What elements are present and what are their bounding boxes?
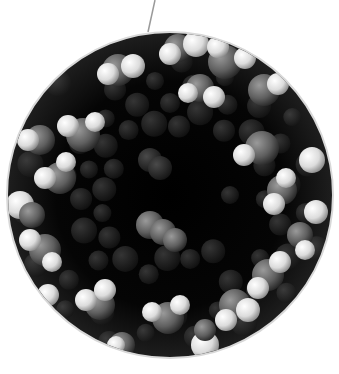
- hydrogen-atom: [203, 86, 225, 108]
- leader-line: [148, 0, 155, 32]
- hydrogen-atom: [170, 295, 190, 315]
- background-atom: [180, 249, 200, 269]
- hydrogen-atom: [233, 144, 255, 166]
- hydrogen-atom: [97, 63, 119, 85]
- hydrogen-atom: [34, 167, 56, 189]
- hydrogen-atom: [178, 83, 198, 103]
- heavy-atom: [163, 228, 187, 252]
- hydrogen-atom: [304, 200, 328, 224]
- hydrogen-atom: [75, 289, 97, 311]
- background-atom: [70, 188, 92, 210]
- hydrogen-atom: [19, 229, 41, 251]
- hydrogen-atom: [295, 240, 315, 260]
- heavy-atom: [194, 319, 216, 341]
- background-atom: [104, 159, 124, 179]
- hydrogen-atom: [299, 147, 325, 173]
- hydrogen-atom: [215, 309, 237, 331]
- hydrogen-atom: [247, 277, 269, 299]
- hydrogen-atom: [57, 115, 79, 137]
- background-atom: [283, 108, 301, 126]
- background-atom: [201, 239, 225, 263]
- background-atom: [93, 204, 111, 222]
- hydrogen-atom: [142, 302, 162, 322]
- background-atom: [59, 270, 79, 290]
- background-atom: [168, 116, 190, 138]
- background-atom: [137, 324, 155, 342]
- hydrogen-atom: [94, 279, 116, 301]
- background-atom: [139, 264, 159, 284]
- background-atom: [146, 72, 164, 90]
- hydrogen-atom: [85, 112, 105, 132]
- hydrogen-atom: [236, 298, 260, 322]
- hydrogen-atom: [263, 193, 285, 215]
- background-atom: [80, 160, 98, 178]
- background-atom: [98, 226, 120, 248]
- background-atom: [125, 93, 149, 117]
- hydrogen-atom: [42, 252, 62, 272]
- hydrogen-atom: [276, 168, 296, 188]
- hydrogen-atom: [269, 251, 291, 273]
- hydrogen-atom: [56, 152, 76, 172]
- background-atom: [141, 111, 167, 137]
- background-atom: [112, 246, 138, 272]
- molecular-inset-figure: [0, 0, 339, 374]
- background-atom: [119, 120, 139, 140]
- background-atom: [71, 218, 97, 244]
- background-atom: [160, 93, 180, 113]
- heavy-atom: [19, 202, 45, 228]
- background-atom: [221, 186, 239, 204]
- hydrogen-atom: [121, 54, 145, 78]
- background-atom: [213, 120, 235, 142]
- background-atom: [45, 70, 71, 96]
- background-atom: [88, 251, 108, 271]
- heavy-atom: [148, 156, 172, 180]
- hydrogen-atom: [159, 43, 181, 65]
- background-atom: [92, 177, 116, 201]
- hydrogen-atom: [267, 73, 289, 95]
